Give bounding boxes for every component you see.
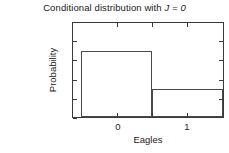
plot-area	[72, 22, 224, 118]
y-tick-mark-0.2	[73, 99, 77, 100]
x-tick-mark-top-0	[117, 23, 118, 27]
x-tick-label-0: 0	[106, 121, 130, 132]
x-axis-title: Eagles	[72, 134, 224, 145]
y-tick-mark-right-0.8	[219, 41, 223, 42]
x-tick-mark-top-mid	[152, 23, 153, 27]
y-tick-mark-right-0.4	[219, 80, 223, 81]
y-tick-mark-0.4	[73, 80, 77, 81]
chart-title: Conditional distribution with J = 0	[0, 2, 229, 14]
chart-title-text: Conditional distribution with	[43, 2, 164, 13]
x-tick-mark-top-1	[187, 23, 188, 27]
y-tick-mark-1	[73, 22, 77, 23]
x-tick-mark-0	[117, 113, 118, 117]
x-tick-mark-mid	[152, 113, 153, 117]
y-tick-mark-0	[73, 118, 77, 119]
y-tick-mark-0.6	[73, 60, 77, 61]
chart-title-math: J = 0	[164, 2, 185, 13]
x-tick-mark-1	[187, 113, 188, 117]
y-tick-mark-right-0.6	[219, 60, 223, 61]
y-tick-mark-0.8	[73, 41, 77, 42]
x-tick-label-1: 1	[175, 121, 199, 132]
bar-eagles-0	[81, 51, 152, 117]
chart-figure: Conditional distribution with J = 0 Prob…	[0, 0, 229, 153]
y-tick-mark-right-0.2	[219, 99, 223, 100]
